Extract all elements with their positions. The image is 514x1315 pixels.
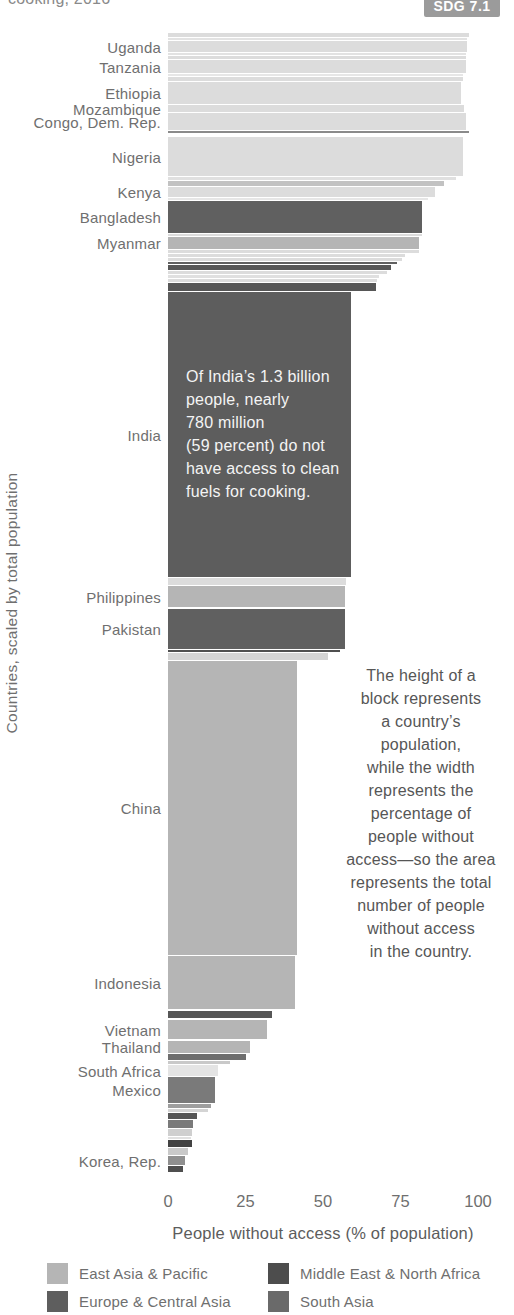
legend-swatch-south-asia xyxy=(268,1291,289,1312)
bar-mexico xyxy=(168,1077,215,1103)
y-axis-label: Countries, scaled by total population xyxy=(3,418,21,788)
country-label-vietnam: Vietnam xyxy=(105,1022,161,1037)
country-label-korea-rep: Korea, Rep. xyxy=(79,1153,161,1168)
legend-swatch-east-asia-pacific xyxy=(47,1263,68,1284)
bar xyxy=(168,1113,197,1119)
country-label-bangladesh: Bangladesh xyxy=(80,210,161,225)
bar-china xyxy=(168,661,297,955)
country-label-congo-dem-rep: Congo, Dem. Rep. xyxy=(34,114,161,129)
x-axis: 0255075100 xyxy=(168,1192,478,1216)
bar xyxy=(168,262,397,264)
bar xyxy=(168,1140,192,1147)
bar xyxy=(168,265,391,270)
country-label-mexico: Mexico xyxy=(112,1083,161,1098)
explainer-annotation: The height of a block represents a count… xyxy=(330,664,512,963)
country-label-nigeria: Nigeria xyxy=(112,149,161,164)
bar xyxy=(168,279,377,282)
bar xyxy=(168,1120,193,1128)
bar-myanmar xyxy=(168,237,419,249)
x-tick-50: 50 xyxy=(314,1192,332,1211)
bar-pakistan xyxy=(168,609,345,649)
bar-tanzania xyxy=(168,60,466,73)
country-label-myanmar: Myanmar xyxy=(97,236,161,251)
bar xyxy=(168,275,379,278)
x-axis-label: People without access (% of population) xyxy=(168,1224,478,1243)
bar xyxy=(168,38,467,40)
bar-nigeria xyxy=(168,137,463,176)
chart-figure: cooking, 2016 SDG 7.1 Countries, scaled … xyxy=(0,0,514,1315)
chart-title-fragment: cooking, 2016 xyxy=(8,0,110,8)
legend-item-east-asia-pacific: East Asia & Pacific xyxy=(47,1263,208,1284)
bar xyxy=(168,56,466,59)
bar xyxy=(168,77,463,81)
bar xyxy=(168,1148,188,1155)
bar xyxy=(168,271,387,274)
bar xyxy=(168,578,346,585)
bar xyxy=(168,650,340,652)
country-label-mozambique: Mozambique xyxy=(73,101,161,116)
bar-philippines xyxy=(168,586,345,607)
legend-item-middle-east-north-africa: Middle East & North Africa xyxy=(268,1263,480,1284)
legend-swatch-middle-east-north-africa xyxy=(268,1263,289,1284)
country-label-kenya: Kenya xyxy=(117,185,161,200)
bar xyxy=(168,258,402,261)
bar-mozambique xyxy=(168,105,464,112)
country-label-tanzania: Tanzania xyxy=(99,59,161,74)
x-tick-75: 75 xyxy=(391,1192,409,1211)
legend-item-south-asia: South Asia xyxy=(268,1291,374,1312)
legend-label-south-asia: South Asia xyxy=(300,1293,374,1310)
bar xyxy=(168,53,466,55)
bar xyxy=(168,234,422,236)
country-label-indonesia: Indonesia xyxy=(94,975,161,990)
country-label-south-africa: South Africa xyxy=(78,1063,161,1078)
bar xyxy=(168,1011,272,1018)
bar xyxy=(168,177,456,180)
country-label-ethiopia: Ethiopia xyxy=(105,86,161,101)
legend-label-europe-central-asia: Europe & Central Asia xyxy=(79,1293,231,1310)
bar-vietnam xyxy=(168,1020,267,1039)
country-label-india: India xyxy=(127,427,161,442)
x-tick-0: 0 xyxy=(163,1192,172,1211)
bar-south-africa xyxy=(168,1065,218,1076)
bar-indonesia xyxy=(168,956,295,1009)
bar xyxy=(168,198,428,200)
legend-label-middle-east-north-africa: Middle East & North Africa xyxy=(300,1265,480,1282)
bar xyxy=(168,1104,211,1108)
bar xyxy=(168,254,405,257)
bar xyxy=(168,653,328,660)
bar xyxy=(168,250,419,253)
x-tick-100: 100 xyxy=(464,1192,492,1211)
country-label-pakistan: Pakistan xyxy=(102,622,161,637)
bar xyxy=(168,1061,230,1064)
country-label-thailand: Thailand xyxy=(102,1040,161,1055)
bar xyxy=(168,131,469,133)
bar xyxy=(168,1137,191,1139)
legend-label-east-asia-pacific: East Asia & Pacific xyxy=(79,1265,208,1282)
bar-kenya xyxy=(168,187,435,197)
bar-congo-dem-rep xyxy=(168,113,466,130)
bar-bangladesh xyxy=(168,201,422,233)
bar xyxy=(168,181,444,186)
plot-area xyxy=(168,0,478,1180)
legend-item-europe-central-asia: Europe & Central Asia xyxy=(47,1291,231,1312)
india-annotation: Of India’s 1.3 billion people, nearly 78… xyxy=(186,365,361,503)
bar xyxy=(168,1129,192,1136)
bar xyxy=(168,74,463,76)
bar xyxy=(168,1166,183,1172)
bar xyxy=(168,283,376,291)
country-label-china: China xyxy=(121,801,161,816)
bar xyxy=(168,1054,246,1060)
bar-korea-rep xyxy=(168,1156,185,1165)
bar-thailand xyxy=(168,1041,250,1053)
bar-uganda xyxy=(168,41,467,52)
legend-swatch-europe-central-asia xyxy=(47,1291,68,1312)
country-label-uganda: Uganda xyxy=(107,39,161,54)
bar-ethiopia xyxy=(168,82,461,104)
x-tick-25: 25 xyxy=(236,1192,254,1211)
bar xyxy=(168,1109,208,1112)
country-label-philippines: Philippines xyxy=(86,589,161,604)
bar xyxy=(168,33,469,37)
